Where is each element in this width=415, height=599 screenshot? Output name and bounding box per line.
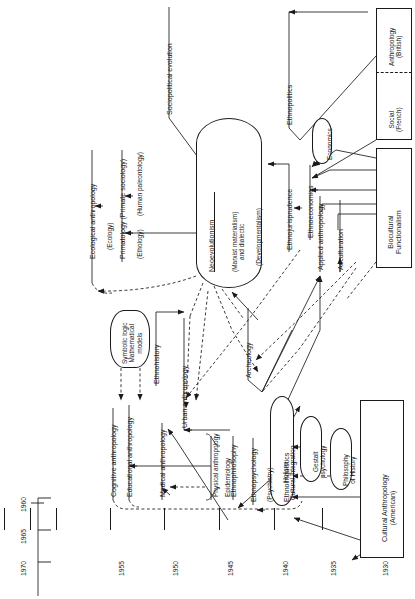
year-label-1965: 1965 bbox=[20, 529, 27, 544]
node-philosophy-of-history: Philosophy of History bbox=[342, 454, 357, 486]
social-british-divider bbox=[376, 72, 412, 73]
year-label-1950: 1950 bbox=[172, 561, 179, 576]
node-educational-anthropology: Educational anthropology bbox=[127, 417, 135, 497]
year-label-1935: 1935 bbox=[330, 561, 337, 576]
tick-1970 bbox=[4, 508, 5, 530]
node-anthropology-british: Anthropology (British) bbox=[388, 28, 403, 66]
node-ecological-anthropology: Ecological anthropology bbox=[90, 184, 98, 259]
node-symbolic-logic: Symbolic logic Mathematical models bbox=[121, 322, 143, 364]
node-applied-anthropology: Applied anthropology bbox=[318, 203, 326, 270]
node-ethnopolitics: Ethnopolitics bbox=[287, 85, 295, 125]
year-label-1960: 1960 bbox=[20, 497, 27, 512]
year-label-1930: 1930 bbox=[382, 561, 389, 576]
node-sociopolitical-evolution: Sociopolitical evolution bbox=[167, 43, 175, 115]
node-ethnopsychology: Ethnopsychology bbox=[251, 448, 259, 502]
year-label-1955: 1955 bbox=[118, 561, 125, 576]
node-psychiatry: (Psychiatry) bbox=[266, 468, 273, 502]
node-economics: Economics bbox=[326, 128, 333, 160]
node-medical-anthropology: Medical anthropology bbox=[160, 430, 168, 497]
node-ethnolinguistics: Ethnolinguistics bbox=[284, 453, 292, 502]
tick-1960 bbox=[56, 508, 57, 530]
node-gestalt-psychology: Gestalt psychology bbox=[312, 445, 327, 478]
node-urban-anthropology: Urban anthropology bbox=[182, 366, 190, 428]
node-ethnophilosophy: Ethnophilosophy bbox=[231, 445, 239, 497]
node-marxist-materialism: (Marxist materialism) and dialectic bbox=[231, 212, 246, 272]
tick-1950 bbox=[164, 508, 165, 530]
node-archeology: Archeology bbox=[246, 343, 254, 379]
node-cultural-anthropology: Cultural Anthropology (American) bbox=[382, 474, 398, 542]
year-label-1940: 1940 bbox=[282, 561, 289, 576]
node-cognitive-anthropology: Cognitive anthropology bbox=[111, 424, 119, 497]
tick-1940 bbox=[274, 508, 275, 530]
node-ecology: (Ecology) bbox=[106, 223, 113, 250]
neoevolutionism-underline bbox=[214, 192, 215, 272]
node-ethology: (Ethology) bbox=[136, 229, 143, 259]
node-ethnohistory: Ethnohistory bbox=[154, 345, 162, 384]
node-physical-anthropology: Physical anthropology bbox=[212, 433, 219, 497]
connector-layer bbox=[0, 0, 415, 599]
node-ethnoeconomics: Ethnoeconomics bbox=[308, 186, 316, 238]
node-ethnojurisprudence: Ethnojurisprudence bbox=[287, 189, 295, 250]
node-developmentalism: (Developmentalism) bbox=[255, 208, 262, 266]
year-label-1945: 1945 bbox=[227, 561, 234, 576]
tick-1935 bbox=[322, 508, 323, 530]
diagram-canvas: 1970 1965 1960 1955 1950 1945 1940 1935 … bbox=[0, 0, 415, 599]
tick-1955 bbox=[110, 508, 111, 530]
node-biocultural-functionalism: Biocultural Functionalism bbox=[388, 210, 404, 254]
node-acculturation: Acculturation bbox=[338, 229, 346, 270]
node-primatology: Primatology (Primate sociology) bbox=[120, 159, 128, 259]
tick-1945 bbox=[219, 508, 220, 530]
tick-1965 bbox=[30, 508, 31, 530]
year-label-1970: 1970 bbox=[20, 561, 27, 576]
node-neoevolutionism-cylinder bbox=[196, 118, 262, 288]
node-human-paleontology: (Human paleontology) bbox=[136, 152, 143, 216]
node-neoevolutionism: Neoevolutionism bbox=[209, 220, 217, 272]
node-social-french: Social (French) bbox=[388, 107, 403, 132]
